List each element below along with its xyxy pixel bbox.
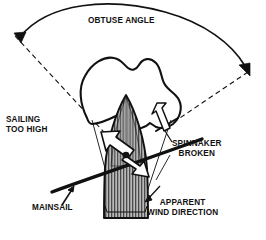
label-sailing-too-high-line1: SAILING xyxy=(6,115,48,125)
right-dashed-ray xyxy=(168,72,248,126)
label-sailing-too-high: SAILING TOO HIGH xyxy=(6,115,48,135)
label-apparent-wind-line2: WIND DIRECTION xyxy=(147,208,218,218)
label-sailing-too-high-line2: TOO HIGH xyxy=(6,125,48,135)
label-obtuse-angle: OBTUSE ANGLE xyxy=(88,16,155,26)
spinnaker-broken-leader xyxy=(165,131,172,142)
label-obtuse-angle-text: OBTUSE ANGLE xyxy=(88,16,155,25)
obtuse-angle-arc-arrow xyxy=(14,4,250,76)
label-mainsail-text: MAINSAIL xyxy=(32,203,73,212)
label-mainsail: MAINSAIL xyxy=(32,203,73,213)
obtuse-angle-sailing-diagram: OBTUSE ANGLE SAILING TOO HIGH SPINNAKER … xyxy=(0,0,266,240)
label-apparent-wind-line1: APPARENT xyxy=(147,198,218,208)
pivot-dot xyxy=(123,152,130,159)
label-spinnaker-broken-line2: BROKEN xyxy=(172,149,222,159)
label-apparent-wind-direction: APPARENT WIND DIRECTION xyxy=(147,198,218,218)
label-spinnaker-broken-line1: SPINNAKER xyxy=(172,139,222,149)
label-spinnaker-broken: SPINNAKER BROKEN xyxy=(172,139,222,159)
